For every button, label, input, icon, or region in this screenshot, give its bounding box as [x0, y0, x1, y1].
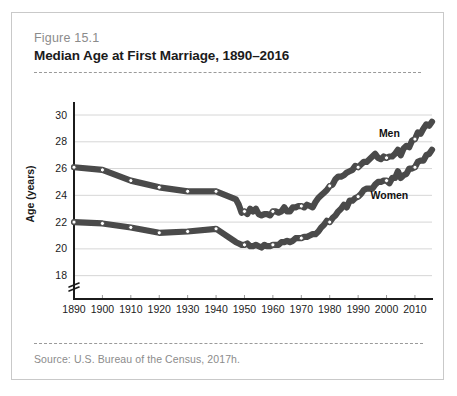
figure-header: Figure 15.1 Median Age at First Marriage…: [12, 13, 443, 63]
data-point-women-2010: [413, 165, 417, 169]
data-point-men-1950: [242, 209, 246, 213]
data-point-men-1890: [72, 165, 76, 169]
svg-text:1900: 1900: [91, 303, 115, 315]
data-point-women-1960: [271, 243, 275, 247]
series-label-women: Women: [371, 189, 409, 201]
svg-text:26: 26: [55, 162, 67, 174]
svg-text:1950: 1950: [233, 303, 257, 315]
source-note: Source: U.S. Bureau of the Census, 2017h…: [34, 353, 423, 365]
svg-text:20: 20: [55, 242, 67, 254]
data-point-men-1960: [271, 209, 275, 213]
data-point-women-1910: [129, 225, 133, 229]
data-point-women-2000: [384, 179, 388, 183]
data-point-men-2010: [413, 137, 417, 141]
data-point-men-1940: [214, 189, 218, 193]
data-point-women-1980: [328, 220, 332, 224]
data-point-women-1920: [157, 231, 161, 235]
data-point-men-1910: [129, 179, 133, 183]
data-point-women-1940: [214, 227, 218, 231]
data-point-women-1930: [186, 229, 190, 233]
figure-card: Figure 15.1 Median Age at First Marriage…: [11, 12, 444, 380]
svg-text:1940: 1940: [204, 303, 228, 315]
data-point-women-1950: [242, 243, 246, 247]
data-point-men-1900: [100, 168, 104, 172]
svg-text:1970: 1970: [290, 303, 314, 315]
svg-text:1920: 1920: [148, 303, 172, 315]
data-point-men-1980: [328, 184, 332, 188]
series-label-group: MenWomen: [371, 127, 409, 201]
svg-text:2000: 2000: [375, 303, 399, 315]
y-tick-label-group: 18202224262830: [55, 109, 67, 282]
series-group: [74, 122, 432, 248]
svg-text:18: 18: [55, 269, 67, 281]
data-point-women-1970: [299, 236, 303, 240]
data-point-women-1900: [100, 221, 104, 225]
data-point-men-1990: [356, 165, 360, 169]
chart-plot-area: 18202224262830 1890190019101920193019401…: [12, 91, 445, 323]
figure-number: Figure 15.1: [34, 31, 421, 45]
x-tick-label-group: 1890190019101920193019401950196019701980…: [62, 303, 426, 315]
svg-text:24: 24: [55, 189, 67, 201]
series-label-men: Men: [379, 127, 400, 139]
svg-text:1980: 1980: [318, 303, 342, 315]
svg-text:1910: 1910: [119, 303, 143, 315]
data-point-women-1890: [72, 220, 76, 224]
svg-text:30: 30: [55, 109, 67, 121]
svg-text:22: 22: [55, 216, 67, 228]
data-point-men-1920: [157, 185, 161, 189]
svg-text:1930: 1930: [176, 303, 200, 315]
divider-top: [34, 72, 421, 73]
data-point-men-1970: [299, 204, 303, 208]
figure-title: Median Age at First Marriage, 1890–2016: [34, 48, 421, 63]
y-axis-title: Age (years): [24, 165, 36, 222]
svg-text:1960: 1960: [261, 303, 285, 315]
line-chart: 18202224262830 1890190019101920193019401…: [12, 91, 445, 323]
data-point-men-1930: [186, 189, 190, 193]
svg-text:2010: 2010: [403, 303, 427, 315]
svg-text:1990: 1990: [346, 303, 370, 315]
divider-bottom: [34, 343, 423, 344]
axis-group: [69, 103, 432, 299]
svg-text:28: 28: [55, 135, 67, 147]
data-point-men-2000: [384, 156, 388, 160]
data-point-women-1990: [356, 195, 360, 199]
figure-footer: Source: U.S. Bureau of the Census, 2017h…: [12, 343, 445, 365]
svg-text:1890: 1890: [62, 303, 86, 315]
